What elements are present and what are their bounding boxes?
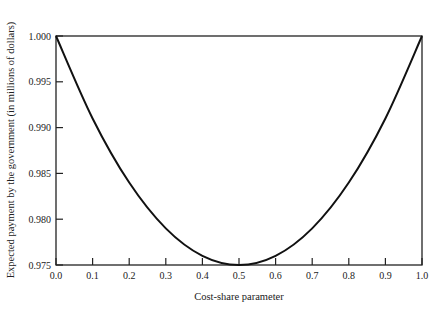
y-tick-label: 1.000 [29,31,52,42]
x-axis: 0.00.10.20.30.40.50.60.70.80.91.0 [50,258,429,281]
data-line [56,36,422,265]
y-tick-label: 0.990 [29,122,52,133]
y-tick-label: 0.975 [29,260,52,271]
x-tick-label: 0.9 [379,270,392,281]
x-tick-label: 0.1 [86,270,99,281]
y-axis: 0.9750.9800.9850.9900.9951.000 [29,31,64,271]
x-axis-label: Cost-share parameter [194,291,284,302]
x-tick-label: 0.2 [123,270,136,281]
x-tick-label: 0.4 [196,270,209,281]
y-tick-label: 0.980 [29,214,52,225]
y-tick-label: 0.995 [29,76,52,87]
x-tick-label: 0.3 [160,270,173,281]
x-tick-label: 0.8 [343,270,356,281]
x-tick-label: 1.0 [416,270,429,281]
x-tick-label: 0.6 [269,270,282,281]
y-tick-label: 0.985 [29,168,52,179]
x-tick-label: 0.0 [50,270,63,281]
x-tick-label: 0.5 [233,270,246,281]
plot-frame [56,36,422,265]
y-axis-label: Expected payment by the government (in m… [5,21,17,278]
chart: 0.9750.9800.9850.9900.9951.000 0.00.10.2… [0,0,439,311]
x-tick-label: 0.7 [306,270,319,281]
